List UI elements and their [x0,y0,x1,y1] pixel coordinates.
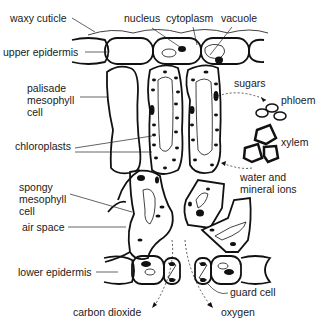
label-nucleus: nucleus [124,12,160,24]
label-oxygen: oxygen [221,306,255,318]
label-phloem: phloem [281,94,315,106]
label-water-and-mineral-ions: water and mineral ions [240,171,297,195]
oxygen-arrow [185,240,210,305]
label-vacuole: vacuole [221,12,257,24]
chloroplasts [150,70,220,169]
label-xylem: xylem [281,136,308,148]
label-carbon-dioxide: carbon dioxide [73,306,141,318]
label-sugars: sugars [234,77,266,89]
label-upper-epidermis: upper epidermis [3,46,78,58]
label-spongy-mesophyll-cell: spongy mesophyll cell [19,181,66,217]
vascular-bundle [244,104,286,162]
label-air-space: air space [22,221,65,233]
waxy-cuticle [88,30,268,36]
label-palisade-mesophyll-cell: palisade mesophyll cell [27,82,74,118]
palisade-layer [107,65,221,174]
upper-epidermis [72,38,264,64]
leaf-cross-section-diagram: waxy cuticle nucleus cytoplasm vacuole u… [0,0,323,323]
sugars-arrow [218,93,266,100]
label-cytoplasm: cytoplasm [166,12,213,24]
label-chloroplasts: chloroplasts [15,140,71,152]
label-waxy-cuticle: waxy cuticle [10,12,67,24]
water-arrow [222,163,252,168]
label-lower-epidermis: lower epidermis [18,266,92,278]
lower-epidermis [104,256,270,284]
spongy-layer [105,170,251,262]
label-guard-cell: guard cell [230,286,276,298]
